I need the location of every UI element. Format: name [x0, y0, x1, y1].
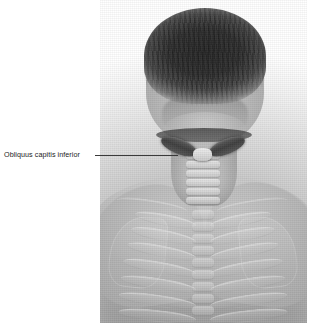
axis-spinous-process	[193, 148, 212, 161]
label-obliquus-capitis-inferior: Obliquus capitis inferior	[4, 150, 80, 159]
anatomy-figure: Obliquus capitis inferior	[0, 0, 332, 333]
anatomy-photo	[100, 0, 307, 323]
suboccipital-muscle-group	[100, 0, 307, 323]
leader-line-obliquus-capitis-inferior	[95, 155, 178, 156]
